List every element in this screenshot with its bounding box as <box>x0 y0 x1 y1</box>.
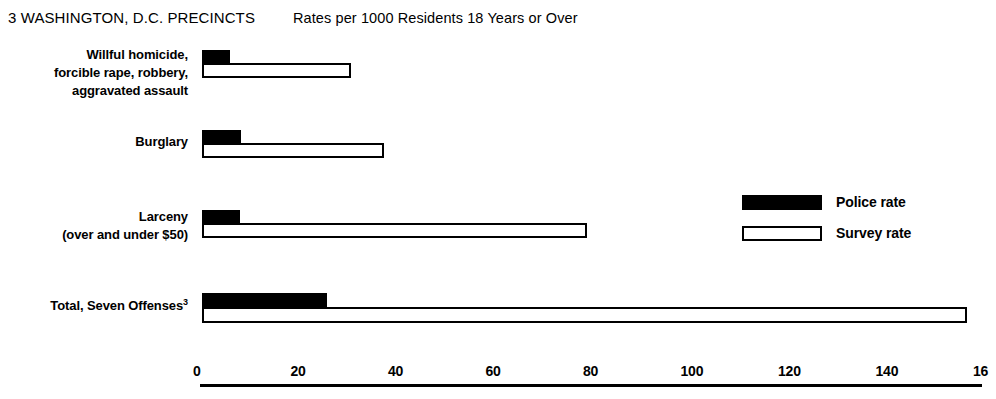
bar-police-rate <box>202 130 241 143</box>
category-label: Larceny(over and under $50) <box>0 208 188 244</box>
legend-swatch-police-icon <box>742 195 822 210</box>
category-label-line: aggravated assault <box>0 82 188 100</box>
x-axis-tick-label: 120 <box>778 363 801 379</box>
chart-title: 3 WASHINGTON, D.C. PRECINCTS <box>8 9 255 26</box>
bar-survey-rate <box>202 63 351 78</box>
x-axis-tick-label: 40 <box>388 363 403 379</box>
legend-label-police: Police rate <box>836 194 906 210</box>
bar-survey-rate <box>202 223 587 238</box>
category-label-line: (over and under $50) <box>0 226 188 244</box>
x-axis-tick-label: 20 <box>291 363 306 379</box>
legend-swatch-survey-icon <box>742 226 822 241</box>
category-label-line: Burglary <box>0 133 188 151</box>
bar-police-rate <box>202 210 240 223</box>
bar-police-rate <box>202 50 230 63</box>
category-label-line: Willful homicide, <box>0 46 188 64</box>
bar-survey-rate <box>202 143 384 158</box>
x-axis-tick-label: 100 <box>681 363 704 379</box>
category-label: Total, Seven Offenses3 <box>0 297 188 315</box>
bar-police-rate <box>202 293 327 307</box>
chart-container: 3 WASHINGTON, D.C. PRECINCTS Rates per 1… <box>0 0 996 399</box>
x-axis-line <box>200 384 982 387</box>
category-label-line: Larceny <box>0 208 188 226</box>
bar-survey-rate <box>202 307 967 323</box>
x-axis-tick-label: 60 <box>486 363 501 379</box>
category-label: Willful homicide,forcible rape, robbery,… <box>0 46 188 100</box>
category-label-line: Total, Seven Offenses3 <box>0 297 188 315</box>
x-axis-tick-label: 140 <box>876 363 899 379</box>
x-axis-tick-label: 0 <box>193 363 201 379</box>
x-axis-tick-label: 80 <box>583 363 598 379</box>
x-axis-tick-label: 16 <box>973 363 988 379</box>
footnote-marker: 3 <box>183 297 188 307</box>
category-label-line: forcible rape, robbery, <box>0 64 188 82</box>
legend-label-survey: Survey rate <box>836 225 911 241</box>
chart-subtitle: Rates per 1000 Residents 18 Years or Ove… <box>293 10 578 26</box>
category-label: Burglary <box>0 133 188 151</box>
